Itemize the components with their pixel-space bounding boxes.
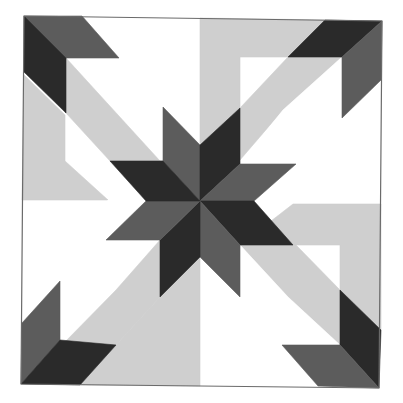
quilt-block-svg [0,0,403,403]
quilt-diagram [0,0,403,403]
